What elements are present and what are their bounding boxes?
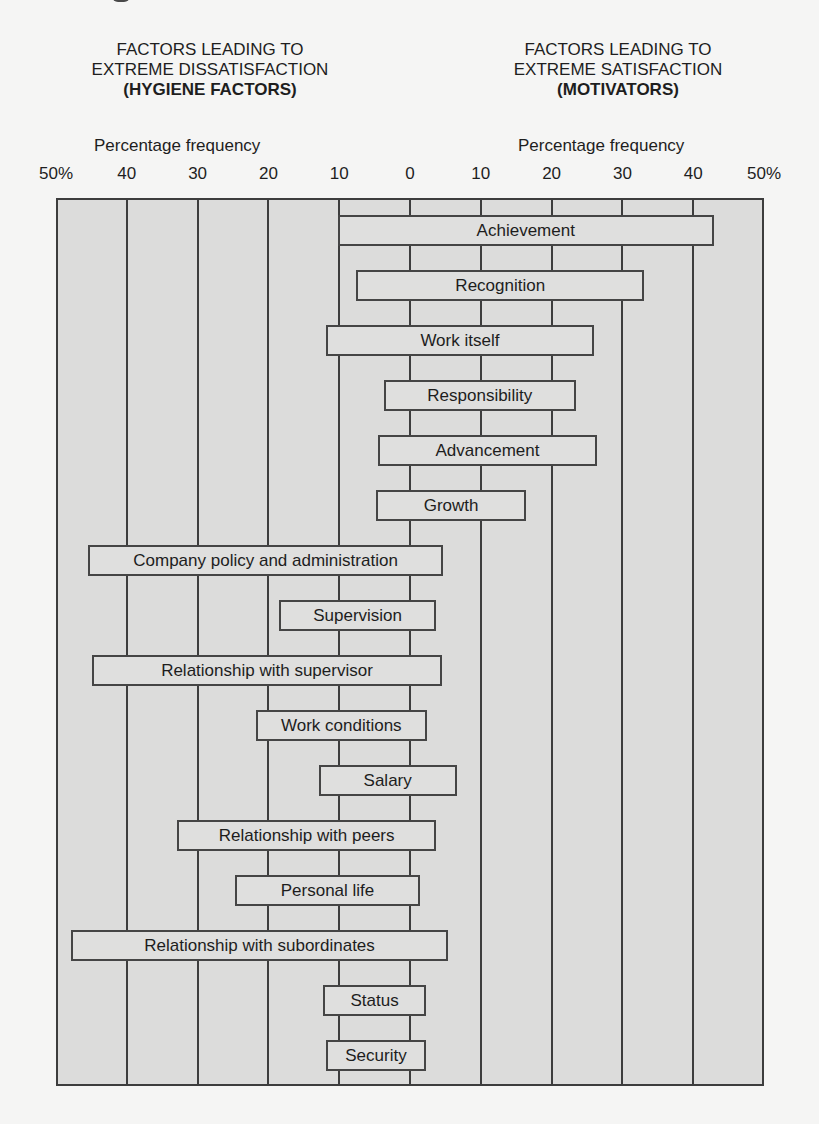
x-tick-label: 30 [188, 164, 207, 184]
x-axis-title-left: Percentage frequency [94, 136, 260, 156]
bar-label: Status [350, 991, 398, 1011]
bar-work-conditions: Work conditions [256, 710, 427, 741]
right-heading-line1: FACTORS LEADING TO [448, 40, 788, 60]
bar-advancement: Advancement [378, 435, 597, 466]
gridline [621, 200, 623, 1084]
gridline [692, 200, 694, 1084]
bar-personal-life: Personal life [235, 875, 420, 906]
x-tick-label: 10 [330, 164, 349, 184]
bar-label: Responsibility [427, 386, 532, 406]
bar-relationship-with-supervisor: Relationship with supervisor [92, 655, 442, 686]
bar-label: Security [345, 1046, 406, 1066]
right-heading-line2: EXTREME SATISFACTION [448, 60, 788, 80]
x-tick-label: 20 [259, 164, 278, 184]
cropped-text-fragment [112, 0, 130, 2]
bar-label: Salary [364, 771, 412, 791]
left-heading-line1: FACTORS LEADING TO [40, 40, 380, 60]
bar-responsibility: Responsibility [384, 380, 576, 411]
bar-label: Relationship with supervisor [161, 661, 373, 681]
bar-label: Recognition [455, 276, 545, 296]
plot-area: AchievementRecognitionWork itselfRespons… [56, 198, 764, 1086]
bar-label: Achievement [477, 221, 575, 241]
right-heading: FACTORS LEADING TO EXTREME SATISFACTION … [448, 40, 788, 100]
bar-label: Company policy and administration [133, 551, 398, 571]
x-tick-label: 50% [39, 164, 73, 184]
right-heading-line3: (MOTIVATORS) [448, 80, 788, 100]
bar-label: Advancement [436, 441, 540, 461]
x-axis-title-right: Percentage frequency [518, 136, 684, 156]
left-heading: FACTORS LEADING TO EXTREME DISSATISFACTI… [40, 40, 380, 100]
bar-supervision: Supervision [279, 600, 436, 631]
bar-growth: Growth [376, 490, 526, 521]
bar-label: Work conditions [281, 716, 402, 736]
bar-achievement: Achievement [338, 215, 714, 246]
bar-label: Work itself [420, 331, 499, 351]
bar-label: Growth [424, 496, 479, 516]
bar-salary: Salary [319, 765, 457, 796]
bar-security: Security [326, 1040, 427, 1071]
x-tick-label: 40 [117, 164, 136, 184]
bar-label: Personal life [281, 881, 375, 901]
bar-status: Status [323, 985, 426, 1016]
bar-relationship-with-subordinates: Relationship with subordinates [71, 930, 448, 961]
bar-company-policy-and-administration: Company policy and administration [88, 545, 443, 576]
bar-recognition: Recognition [356, 270, 644, 301]
x-tick-label: 20 [542, 164, 561, 184]
bar-work-itself: Work itself [326, 325, 594, 356]
x-tick-label: 50% [747, 164, 781, 184]
bar-relationship-with-peers: Relationship with peers [177, 820, 436, 851]
x-tick-label: 0 [405, 164, 414, 184]
left-heading-line3: (HYGIENE FACTORS) [40, 80, 380, 100]
x-tick-label: 10 [471, 164, 490, 184]
bar-label: Supervision [313, 606, 402, 626]
bar-label: Relationship with peers [219, 826, 395, 846]
x-tick-label: 40 [684, 164, 703, 184]
left-heading-line2: EXTREME DISSATISFACTION [40, 60, 380, 80]
x-tick-label: 30 [613, 164, 632, 184]
bar-label: Relationship with subordinates [144, 936, 375, 956]
